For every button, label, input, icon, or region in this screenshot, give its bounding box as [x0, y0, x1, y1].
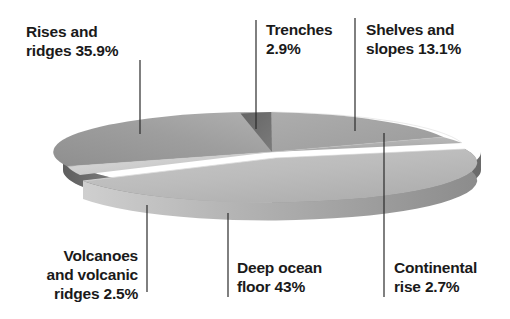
- slice-label-rises-and-ridges: Rises and ridges 35.9%: [26, 22, 156, 60]
- slice-label-deep-ocean-floor: Deep ocean floor 43%: [237, 258, 343, 296]
- slice-label-continental-rise: Continental rise 2.7%: [394, 258, 504, 296]
- pie-top-surface: [53, 112, 477, 220]
- pie-slice-rises-and-ridges: [53, 112, 272, 167]
- pie-chart-figure: Rises and ridges 35.9% Trenches 2.9% She…: [0, 0, 510, 319]
- slice-label-shelves-and-slopes: Shelves and slopes 13.1%: [366, 20, 486, 58]
- slice-label-trenches: Trenches 2.9%: [266, 20, 358, 58]
- slice-label-volcanoes-and-volcanic-ridges: Volcanoes and volcanic ridges 2.5%: [22, 246, 138, 303]
